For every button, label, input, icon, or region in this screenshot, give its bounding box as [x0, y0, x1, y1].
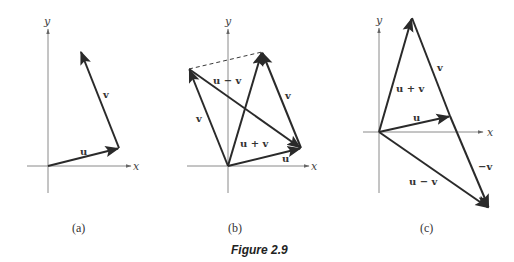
vector-v — [81, 52, 119, 148]
dashed-parallelogram-edge — [189, 52, 262, 69]
panel-c: y x u u + v v −v u − v (c) — [363, 14, 494, 235]
y-axis-label: y — [43, 15, 51, 28]
x-axis-label: x — [487, 126, 494, 139]
y-axis-label: y — [375, 14, 383, 27]
vector-u-minus-v — [379, 132, 488, 208]
label-u-plus-v: u + v — [396, 83, 426, 94]
vector-u-plus-v — [379, 19, 412, 132]
label-u: u — [413, 112, 420, 123]
label-u-minus-v: u − v — [213, 75, 243, 86]
label-v: v — [102, 89, 110, 100]
label-u-plus-v: u + v — [240, 138, 270, 149]
y-axis-label: y — [224, 15, 232, 28]
vector-v — [412, 18, 450, 116]
label-v-right: v — [284, 90, 292, 101]
x-axis-label: x — [311, 160, 318, 173]
caption-b: (b) — [228, 221, 242, 235]
label-u-minus-v: u − v — [409, 176, 439, 187]
label-v-left: v — [195, 113, 203, 124]
caption-c: (c) — [420, 221, 433, 235]
panel-b: y x u v v u + v u − v (b) — [187, 15, 318, 235]
label-v: v — [436, 62, 444, 73]
figure-2-9: y x u v (a) y x u v v u + v u − v (b) y … — [0, 0, 514, 262]
label-u: u — [80, 146, 87, 157]
label-u: u — [282, 153, 289, 164]
figure-title: Figure 2.9 — [231, 243, 288, 257]
caption-a: (a) — [72, 221, 85, 235]
label-neg-v: −v — [478, 161, 493, 172]
panel-a: y x u v (a) — [27, 15, 140, 235]
x-axis-label: x — [133, 160, 140, 173]
